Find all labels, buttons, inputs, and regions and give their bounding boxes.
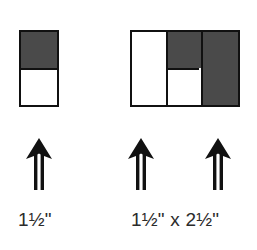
right-middle-bottom-cell xyxy=(168,70,201,105)
left-bottom-cell xyxy=(21,70,57,105)
arrow-1 xyxy=(24,138,54,190)
right-block-horizontal-divider xyxy=(166,68,199,70)
right-block-swatch xyxy=(130,30,240,107)
arrow-3 xyxy=(203,138,233,190)
left-block-horizontal-divider xyxy=(21,68,57,70)
arrow-up-icon xyxy=(24,138,54,190)
arrow-up-icon xyxy=(203,138,233,190)
figure-canvas: 1½" 1½" x 2½" xyxy=(0,0,257,250)
arrow-2 xyxy=(126,138,156,190)
right-middle-top-cell xyxy=(168,32,201,68)
right-left-cell xyxy=(132,32,166,105)
arrow-up-icon xyxy=(126,138,156,190)
left-top-cell xyxy=(21,32,57,68)
right-right-cell xyxy=(203,32,238,105)
left-block-caption: 1½" xyxy=(18,210,52,229)
right-block-caption: 1½" x 2½" xyxy=(131,210,219,229)
left-block-swatch xyxy=(19,30,59,107)
right-block-vertical-divider-2 xyxy=(201,32,203,105)
